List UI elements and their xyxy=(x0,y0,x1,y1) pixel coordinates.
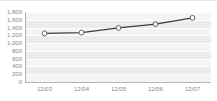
y-axis-tick-label: 400 xyxy=(12,63,22,69)
plot-band xyxy=(26,66,211,74)
x-axis-tick-label: 12/05 xyxy=(111,86,126,93)
y-axis-tick-label: 1,000 xyxy=(7,40,22,46)
x-axis-tick-label: 12/07 xyxy=(185,86,200,93)
y-axis-tick-label: 0 xyxy=(19,79,22,85)
gridline xyxy=(26,74,211,75)
gridline xyxy=(26,59,211,60)
x-axis-tick-label: 12/04 xyxy=(74,86,89,93)
x-axis-labels: 12/0312/0412/0512/0612/07 xyxy=(26,86,211,98)
x-axis-line xyxy=(26,82,211,83)
gridline xyxy=(26,66,211,67)
plot-band xyxy=(26,20,211,28)
y-axis-tick-label: 800 xyxy=(12,48,22,54)
top-border xyxy=(0,0,217,1)
x-axis-tick-label: 12/03 xyxy=(37,86,52,93)
y-axis-labels: 02004006008001,0001,2001,4001,6001,800 xyxy=(0,0,24,101)
line-chart: 02004006008001,0001,2001,4001,6001,800 1… xyxy=(0,0,217,101)
y-axis-tick-label: 1,600 xyxy=(7,17,22,23)
y-axis-tick-label: 1,800 xyxy=(7,9,22,15)
y-axis-tick-label: 200 xyxy=(12,71,22,77)
gridline xyxy=(26,43,211,44)
x-axis-tick-label: 12/06 xyxy=(148,86,163,93)
y-axis-tick-label: 1,200 xyxy=(7,32,22,38)
gridline xyxy=(26,20,211,21)
y-axis-tick-label: 1,400 xyxy=(7,25,22,31)
y-axis-tick-label: 600 xyxy=(12,56,22,62)
plot-band xyxy=(26,35,211,43)
gridline xyxy=(26,35,211,36)
gridline xyxy=(26,12,211,13)
gridline xyxy=(26,51,211,52)
plot-band xyxy=(26,51,211,59)
gridline xyxy=(26,28,211,29)
plot-area xyxy=(26,12,211,82)
y-axis-line xyxy=(25,12,26,83)
